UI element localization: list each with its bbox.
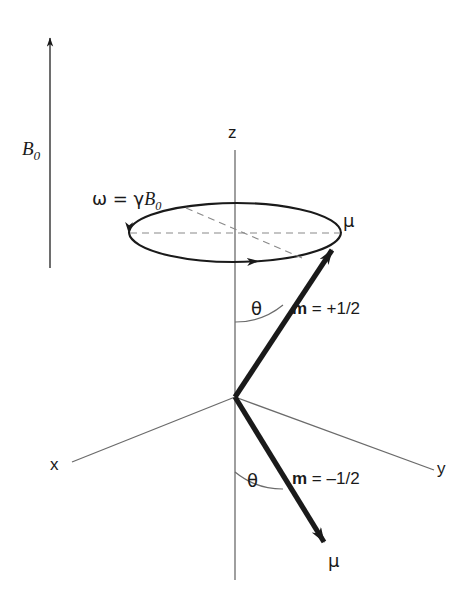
theta-arc-lower <box>235 472 283 489</box>
spin-state-label-down: m = –1/2 <box>292 470 360 487</box>
diagram-canvas <box>0 0 472 599</box>
mu-vector-up <box>235 250 332 397</box>
y-axis <box>235 397 434 470</box>
mu-label-lower: μ <box>328 552 339 570</box>
y-axis-label: y <box>437 460 446 477</box>
precession-arc-front-left <box>129 233 258 262</box>
z-axis-label: z <box>228 124 237 141</box>
precession-arc-back-right <box>208 203 341 233</box>
spin-state-label-up: m = +1/2 <box>292 300 360 317</box>
nmr-precession-figure: B0 ω = γB0 z x y μ μ θ θ m = +1/2 m = –1… <box>0 0 472 599</box>
theta-label-upper: θ <box>251 300 262 318</box>
b0-field-label: B0 <box>22 139 40 162</box>
x-axis-label: x <box>50 456 59 473</box>
theta-label-lower: θ <box>247 472 258 490</box>
mu-label-upper: μ <box>343 212 354 230</box>
larmor-frequency-label: ω = γB0 <box>92 190 161 212</box>
x-axis <box>72 397 235 462</box>
